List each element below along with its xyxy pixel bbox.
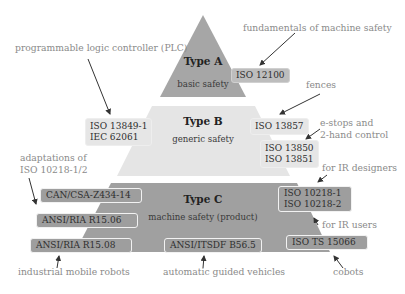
- annotation-adaptations-line1: adaptations of: [20, 152, 88, 164]
- annotation-fences: fences: [306, 80, 336, 91]
- annotation-ir-users: for IR users: [322, 220, 377, 231]
- tier-a-title: Type A: [173, 55, 233, 67]
- standard-iso-13851: ISO 13851: [265, 154, 314, 165]
- annotation-industrial-mobile-robots: industrial mobile robots: [18, 267, 130, 278]
- tier-c-subtitle: machine safety (product): [143, 213, 263, 223]
- standard-iso-13857: ISO 13857: [250, 118, 309, 135]
- standard-iso-13850-13851: ISO 13850 ISO 13851: [260, 140, 319, 168]
- annotation-ir-designers: for IR designers: [322, 163, 397, 174]
- standard-iso-ts-15066: ISO TS 15066: [286, 235, 368, 250]
- standard-iso-10218-1: ISO 10218-1: [284, 188, 346, 199]
- tier-b-title: Type B: [173, 115, 233, 127]
- standard-ansi-ria-r15-06: ANSI/RIA R15.06: [36, 213, 138, 228]
- standard-can-csa-z434: CAN/CSA-Z434-14: [40, 188, 142, 203]
- annotation-adaptations: adaptations of ISO 10218-1/2: [20, 152, 88, 175]
- tier-b-subtitle: generic safety: [153, 135, 253, 145]
- arrow-adaptations: [29, 178, 36, 204]
- arrow-fundamentals: [260, 33, 295, 65]
- annotation-cobots: cobots: [333, 267, 364, 278]
- arrow-fences: [280, 94, 320, 114]
- annotation-plc: programmable logic controller (PLC): [15, 43, 187, 54]
- standard-iso-10218: ISO 10218-1 ISO 10218-2: [278, 186, 352, 212]
- standard-iec-62061: IEC 62061: [90, 132, 147, 143]
- standard-ansi-ria-r15-08: ANSI/RIA R15.08: [30, 238, 132, 253]
- annotation-estops: e-stops and 2-hand control: [320, 117, 388, 140]
- annotation-adaptations-line2: ISO 10218-1/2: [20, 164, 88, 176]
- standard-iso-12100: ISO 12100: [231, 68, 290, 83]
- arrow-plc: [88, 59, 110, 114]
- annotation-fundamentals: fundamentals of machine safety: [243, 23, 392, 34]
- arrow-ir-designers: [318, 175, 327, 182]
- annotation-agv: automatic guided vehicles: [163, 267, 285, 278]
- standard-iso-13850: ISO 13850: [265, 143, 314, 154]
- standard-ansi-itsdf-b56-5: ANSI/ITSDF B56.5: [164, 238, 262, 253]
- standard-iso-13849-1: ISO 13849-1: [90, 121, 147, 132]
- annotation-estops-line2: 2-hand control: [320, 129, 388, 141]
- safety-standards-pyramid: Type A basic safety Type B generic safet…: [0, 0, 405, 294]
- annotation-estops-line1: e-stops and: [320, 117, 388, 129]
- tier-c-title: Type C: [173, 193, 233, 205]
- standard-iso-10218-2: ISO 10218-2: [284, 199, 346, 210]
- standard-iso-13849-iec-62061: ISO 13849-1 IEC 62061: [85, 118, 152, 146]
